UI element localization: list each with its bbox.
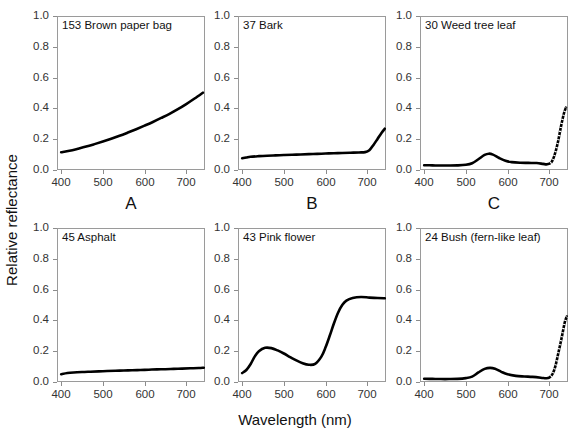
reflectance-curve-f [0,0,586,440]
spectral-reflectance-figure: Relative reflectance Wavelength (nm) 153… [0,0,586,440]
